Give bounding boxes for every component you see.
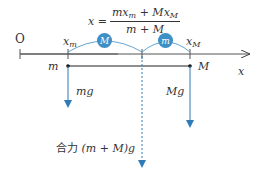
formula-denominator: m + M [126, 22, 164, 36]
Mg-label: Mg [166, 86, 184, 97]
axis-label: x [238, 66, 244, 77]
ball-M: M [97, 33, 112, 48]
formula-numerator: mxm + MxM [110, 6, 180, 22]
formula-lhs: x = [88, 15, 107, 28]
resultant-label: 合力 (m + M)g [56, 143, 135, 154]
mg-label: mg [76, 86, 93, 97]
xm-label: xm [63, 36, 77, 49]
center-of-mass-formula: x = mxm + MxM m + M [88, 6, 180, 36]
mass-M-label: M [198, 61, 209, 72]
ball-m: m [158, 33, 173, 48]
xM-label: xM [186, 36, 200, 49]
origin-label: O [15, 33, 25, 45]
mass-m-label: m [48, 61, 58, 72]
